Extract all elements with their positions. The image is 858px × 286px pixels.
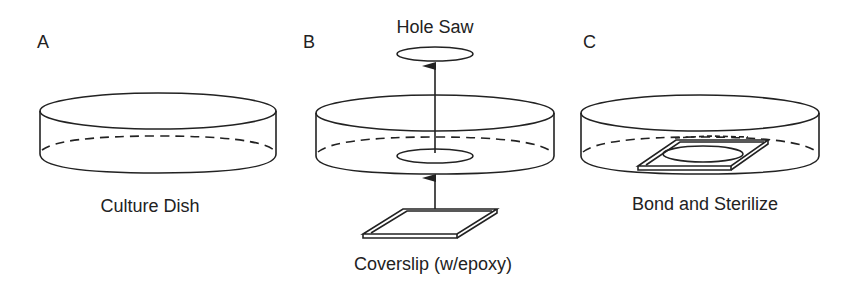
caption-bond-sterilize: Bond and Sterilize [632,194,778,214]
panel-letter-b: B [303,32,315,52]
hole-saw-disc [397,47,473,61]
panel-c: C Bond and Sterilize [581,32,819,214]
coverslip [363,209,497,238]
caption-culture-dish: Culture Dish [100,196,199,216]
panel-a: A Culture Dish [37,32,276,216]
panel-letter-a: A [37,32,49,52]
panel-letter-c: C [583,32,596,52]
caption-coverslip: Coverslip (w/epoxy) [354,254,512,274]
culture-dish-c [581,95,819,174]
label-hole-saw: Hole Saw [396,17,474,37]
panel-b: B Hole Saw Coverslip (w/epoxy) [303,17,554,274]
diagram-canvas: A Culture Dish B Hole Saw [0,0,858,286]
culture-dish-a [40,93,276,173]
